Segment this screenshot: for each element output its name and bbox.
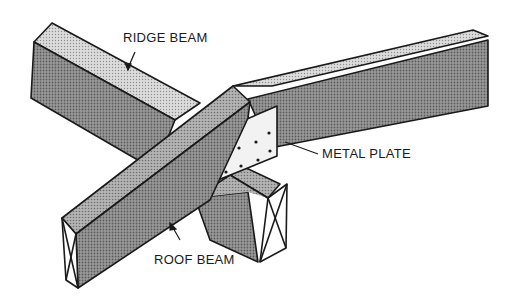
metal-plate-label: METAL PLATE [322, 146, 411, 161]
metal-plate-leader [285, 142, 318, 154]
roof-beam-label: ROOF BEAM [154, 252, 235, 267]
roof-beam-leader [170, 223, 180, 240]
roof-beam-diagram [0, 0, 520, 298]
ridge-beam-label: RIDGE BEAM [123, 30, 208, 45]
